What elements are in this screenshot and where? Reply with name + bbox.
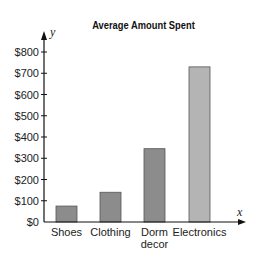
x-tick-label: decor [141, 238, 169, 250]
bar-dorm-decor [144, 149, 165, 222]
x-tick-label: Dorm [141, 226, 168, 238]
y-axis-arrow-icon [41, 31, 47, 40]
x-tick-label: Electronics [173, 226, 227, 238]
y-tick-label: $300 [15, 152, 39, 164]
x-axis-arrow-icon [238, 219, 246, 225]
y-tick-label: $800 [15, 46, 39, 58]
y-tick-label: $500 [15, 110, 39, 122]
bar-chart: ShoesClothingDormdecorElectronicsyx$0$10… [0, 0, 253, 258]
x-tick-label: Clothing [90, 226, 130, 238]
x-tick-label: Shoes [51, 226, 83, 238]
y-tick-label: $700 [15, 67, 39, 79]
x-axis-label: x [236, 205, 243, 219]
bar-electronics [189, 67, 210, 222]
y-tick-label: $0 [27, 216, 39, 228]
bar-shoes [56, 206, 77, 222]
y-tick-label: $100 [15, 195, 39, 207]
bar-clothing [100, 192, 121, 222]
y-axis-label: y [49, 25, 56, 39]
y-tick-label: $200 [15, 174, 39, 186]
y-tick-label: $400 [15, 131, 39, 143]
y-tick-label: $600 [15, 89, 39, 101]
